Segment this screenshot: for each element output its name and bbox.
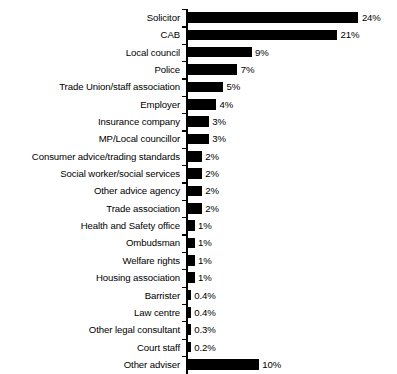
bar-row: CAB21% — [0, 26, 397, 43]
bar — [188, 82, 224, 93]
bar-row: Law centre0.4% — [0, 304, 397, 321]
axis-tick — [182, 339, 187, 340]
bar-row: Police7% — [0, 61, 397, 78]
category-label: Solicitor — [147, 9, 180, 26]
bar — [188, 220, 195, 231]
bar-row: Trade association2% — [0, 200, 397, 217]
bar-row: Ombudsman1% — [0, 234, 397, 251]
bar-row: Trade Union/staff association5% — [0, 78, 397, 95]
axis-tick — [182, 252, 187, 253]
bar-row: MP/Local councillor3% — [0, 130, 397, 147]
bar — [188, 307, 191, 318]
bar — [188, 255, 195, 266]
category-label: Employer — [140, 96, 180, 113]
bar — [188, 238, 195, 249]
bar — [188, 186, 202, 197]
bar-row: Court staff0.2% — [0, 339, 397, 356]
bar — [188, 359, 259, 370]
category-label: Trade Union/staff association — [59, 78, 180, 95]
value-label: 1% — [198, 234, 212, 251]
axis-tick — [182, 61, 187, 62]
category-label: Other adviser — [124, 356, 180, 373]
axis-tick — [182, 113, 187, 114]
value-label: 4% — [219, 96, 233, 113]
value-label: 3% — [212, 130, 226, 147]
axis-tick — [182, 165, 187, 166]
bar — [188, 116, 209, 127]
category-label: Other legal consultant — [89, 321, 180, 338]
bar — [188, 342, 191, 353]
bar — [188, 134, 209, 145]
category-label: Police — [154, 61, 180, 78]
axis-tick — [182, 304, 187, 305]
axis-tick — [182, 26, 187, 27]
category-label: Welfare rights — [122, 252, 180, 269]
value-label: 21% — [341, 26, 360, 43]
value-label: 1% — [198, 217, 212, 234]
value-label: 0.4% — [194, 304, 215, 321]
bar-row: Local council9% — [0, 44, 397, 61]
value-label: 10% — [262, 356, 281, 373]
bar-row: Other legal consultant0.3% — [0, 321, 397, 338]
bar — [188, 99, 216, 110]
bar — [188, 30, 338, 41]
category-label: Insurance company — [98, 113, 180, 130]
value-label: 2% — [205, 200, 219, 217]
bar-row: Other advice agency2% — [0, 182, 397, 199]
axis-tick — [182, 234, 187, 235]
axis-tick — [182, 356, 187, 357]
axis-tick — [182, 130, 187, 131]
axis-tick — [182, 148, 187, 149]
bar — [188, 47, 252, 58]
value-label: 24% — [362, 9, 381, 26]
value-label: 1% — [198, 252, 212, 269]
value-label: 2% — [205, 148, 219, 165]
category-label: Court staff — [137, 339, 180, 356]
axis-tick — [182, 287, 187, 288]
category-label: Other advice agency — [94, 182, 180, 199]
bar — [188, 203, 202, 214]
category-label: MP/Local councillor — [99, 130, 180, 147]
bar — [188, 290, 191, 301]
axis-tick — [182, 200, 187, 201]
value-label: 2% — [205, 182, 219, 199]
value-label: 7% — [241, 61, 255, 78]
value-label: 0.3% — [194, 321, 215, 338]
axis-tick — [182, 182, 187, 183]
value-label: 0.4% — [194, 287, 215, 304]
value-label: 9% — [255, 44, 269, 61]
bar-row: Housing association1% — [0, 269, 397, 286]
axis-tick — [182, 269, 187, 270]
bar-row: Health and Safety office1% — [0, 217, 397, 234]
bar — [188, 272, 195, 283]
bar — [188, 324, 191, 335]
bar-row: Barrister0.4% — [0, 287, 397, 304]
category-label: Trade association — [106, 200, 180, 217]
axis-tick — [182, 96, 187, 97]
bar-row: Welfare rights1% — [0, 252, 397, 269]
category-label: Barrister — [145, 287, 180, 304]
category-label: Law centre — [134, 304, 180, 321]
category-label: CAB — [161, 26, 180, 43]
category-label: Local council — [126, 44, 180, 61]
bar — [188, 151, 202, 162]
bar-row: Insurance company3% — [0, 113, 397, 130]
bar-row: Other adviser10% — [0, 356, 397, 373]
axis-tick — [182, 321, 187, 322]
category-label: Social worker/social services — [60, 165, 180, 182]
value-label: 0.2% — [194, 339, 215, 356]
axis-tick — [182, 9, 187, 10]
axis-tick — [182, 44, 187, 45]
value-label: 5% — [227, 78, 241, 95]
category-label: Ombudsman — [126, 234, 180, 251]
bar — [188, 12, 359, 23]
bar — [188, 64, 238, 75]
axis-tick — [182, 78, 187, 79]
category-label: Health and Safety office — [81, 217, 180, 234]
bar-row: Consumer advice/trading standards2% — [0, 148, 397, 165]
value-label: 3% — [212, 113, 226, 130]
bar-row: Social worker/social services2% — [0, 165, 397, 182]
bar-row: Solicitor24% — [0, 9, 397, 26]
axis-tick — [182, 217, 187, 218]
